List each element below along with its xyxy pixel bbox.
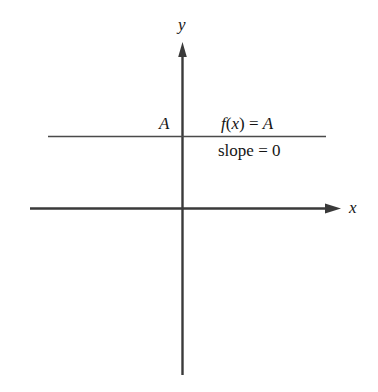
x-axis-group [30, 204, 341, 214]
y-intercept-value-label: A [159, 115, 169, 132]
function-variable-x: x [231, 114, 239, 133]
x-axis-label: x [349, 199, 357, 216]
slope-equation-label: slope = 0 [218, 142, 280, 159]
function-constant-value: A [263, 114, 273, 133]
y-axis-label: y [178, 16, 186, 33]
y-axis-arrowhead [178, 42, 187, 57]
coordinate-plane-svg [0, 0, 378, 392]
function-equation-label: f(x) = A [221, 115, 273, 132]
function-equals-sign: = [245, 114, 263, 133]
x-axis-arrowhead [325, 204, 341, 214]
constant-function-graph-figure: y x A f(x) = A slope = 0 [0, 0, 378, 392]
